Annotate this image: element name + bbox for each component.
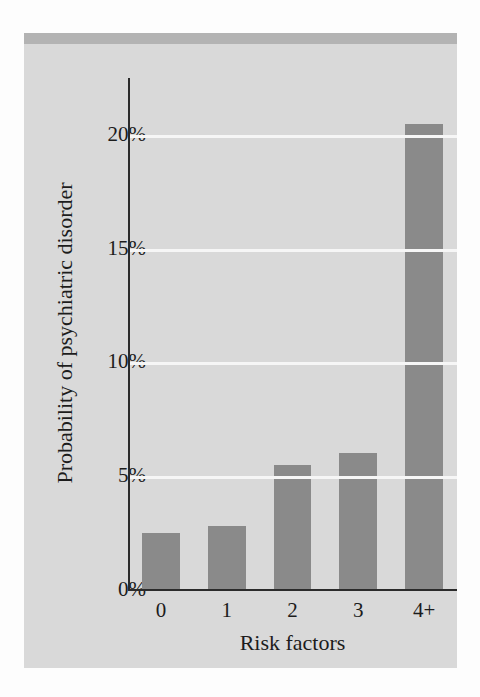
y-axis-title: Probability of psychiatric disorder xyxy=(52,153,78,513)
y-axis-line xyxy=(128,78,130,591)
figure-root: 20% 15% 10% 5% 0% 0 1 2 3 4+ Risk facto xyxy=(0,0,480,697)
x-tick-label-4: 4+ xyxy=(413,598,435,623)
x-tick-label-2: 2 xyxy=(287,598,298,623)
gridline-15 xyxy=(128,249,457,252)
bar-4 xyxy=(405,124,443,590)
bar-2 xyxy=(274,465,312,590)
bar-1 xyxy=(208,526,246,590)
bar-3 xyxy=(339,453,377,590)
gridline-10 xyxy=(128,362,457,365)
x-tick-label-0: 0 xyxy=(156,598,167,623)
x-axis-line xyxy=(128,589,457,591)
chart-panel: 20% 15% 10% 5% 0% 0 1 2 3 4+ Risk facto xyxy=(24,33,457,668)
bar-0 xyxy=(142,533,180,590)
plot-area xyxy=(128,78,457,590)
x-tick-label-1: 1 xyxy=(221,598,232,623)
x-tick-label-3: 3 xyxy=(353,598,364,623)
gridline-20 xyxy=(128,135,457,138)
x-axis-title: Risk factors xyxy=(128,630,457,656)
gridline-5 xyxy=(128,476,457,479)
